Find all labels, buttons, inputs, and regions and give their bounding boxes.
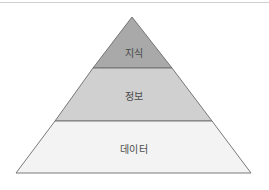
layer-label-knowledge: 지식 xyxy=(125,45,143,60)
layer-label-information: 정보 xyxy=(125,88,143,103)
layer-label-data: 데이터 xyxy=(120,141,148,156)
pyramid-layer-knowledge xyxy=(93,17,172,68)
